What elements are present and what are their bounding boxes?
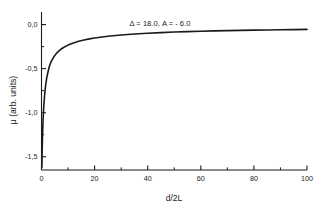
y-axis-tick-label: -1,0 — [25, 108, 37, 117]
x-axis-tick-label: 40 — [144, 174, 152, 183]
y-axis-title: μ (arb. units) — [8, 76, 18, 125]
chart-figure: 0,0-0,5-1,0-1,5 020406080100 Δ = 18.0, A… — [0, 0, 320, 211]
x-axis-tick-label: 80 — [250, 174, 258, 183]
x-axis-tick-label: 60 — [197, 174, 205, 183]
x-axis-tick-label: 20 — [91, 174, 99, 183]
figure-background — [0, 0, 320, 211]
chart-canvas: 0,0-0,5-1,0-1,5 020406080100 Δ = 18.0, A… — [0, 0, 320, 211]
y-axis-tick-label: -0,5 — [25, 64, 37, 73]
y-axis-tick-label: -1,5 — [25, 152, 37, 161]
x-axis-tick-label: 0 — [40, 174, 44, 183]
y-axis-tick-label: 0,0 — [28, 20, 38, 29]
x-axis-tick-label: 100 — [301, 174, 313, 183]
chart-annotation: Δ = 18.0, A = - 6.0 — [130, 19, 191, 28]
x-axis-title: d/2L — [166, 193, 183, 203]
